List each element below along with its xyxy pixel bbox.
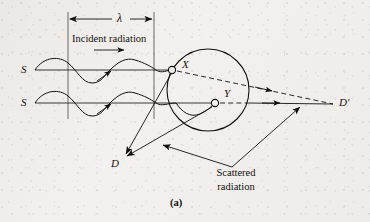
point-x-label: X [182,59,189,70]
source-label-top: S [21,64,27,75]
scattered-ray-x-arrowhead [255,87,272,91]
incident-radiation-label: Incident radiation [72,34,146,45]
wave-bottom-arrowhead [97,104,111,114]
figure-caption: (a) [170,198,182,209]
scatterer-sphere [167,49,249,131]
scattered-leader-right [232,107,300,167]
scattered-ray-x-to-d [126,74,171,154]
wave-top-arrowhead [97,71,111,81]
scattered-radiation-line1: Scattered [205,168,267,179]
source-label-bottom: S [21,97,27,108]
wavelength-label: λ [117,13,122,25]
point-y-marker [211,99,218,106]
scattered-leader-left [163,145,232,167]
wave-bottom [35,91,176,116]
scattered-radiation-label: Scattered radiation [205,168,267,192]
scattered-ray-y-to-dprime [248,103,333,104]
scattered-radiation-line2: radiation [205,182,267,193]
point-y-label: Y [224,88,230,99]
point-x-marker [168,66,175,73]
detector-d-label: D [111,158,119,169]
scattered-ray-y-to-d [127,107,212,156]
detector-d-prime-label: D′ [339,97,349,108]
wave-top [35,58,172,83]
diagram-canvas [0,0,370,222]
figure-panel: λ Incident radiation S S X Y D D′ Scatte… [0,0,370,222]
scattered-ray-x-to-dprime [177,71,333,104]
